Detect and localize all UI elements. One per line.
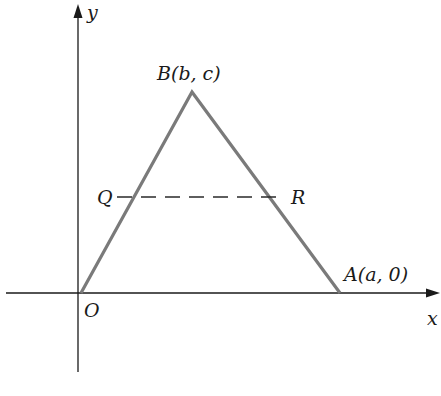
x-axis-arrow-icon [426, 289, 440, 298]
vertex-b-label: B(b, c) [156, 62, 221, 84]
point-q-label: Q [97, 186, 113, 208]
point-r-label: R [290, 186, 305, 208]
x-axis-label: x [427, 307, 438, 329]
coordinate-diagram: y x O B(b, c) A(a, 0) Q R [0, 0, 441, 396]
vertex-a-label: A(a, 0) [342, 263, 408, 285]
origin-label: O [84, 299, 100, 321]
y-axis-arrow-icon [74, 4, 83, 18]
y-axis-label: y [86, 1, 98, 23]
